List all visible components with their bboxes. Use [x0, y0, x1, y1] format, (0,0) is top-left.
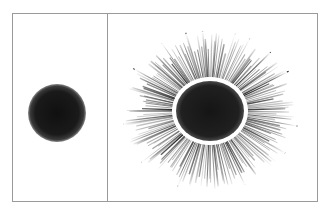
left-panel	[28, 84, 86, 142]
figure-canvas	[0, 0, 329, 215]
dark-blob	[28, 84, 86, 142]
right-panel	[122, 31, 298, 191]
dark-blob-core	[176, 81, 244, 141]
